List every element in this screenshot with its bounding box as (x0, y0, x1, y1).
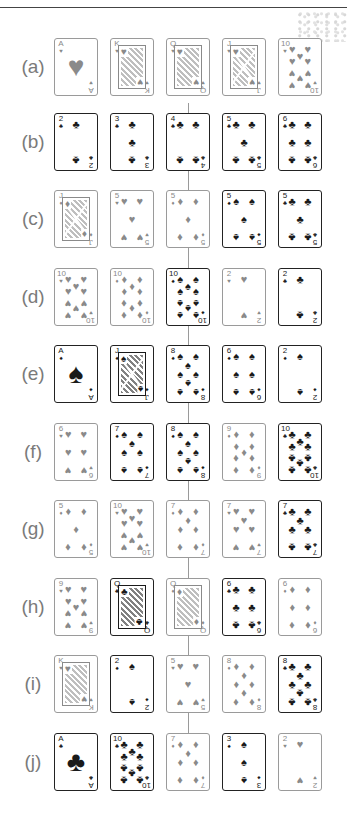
clubs-icon: ♣ (233, 583, 240, 594)
clubs-icon: ♣ (248, 583, 255, 594)
playing-card: 6♠6♠♠♠♠♠♠♠ (222, 345, 266, 403)
clubs-icon: ♣ (304, 440, 311, 451)
face-card-artwork: ♥♥ (118, 45, 146, 89)
diamonds-icon: ♦ (185, 748, 191, 759)
clubs-icon: ♣ (233, 118, 240, 129)
spades-icon: ♠ (69, 360, 84, 388)
diamonds-icon: ♦ (81, 505, 87, 516)
spades-icon: ♠ (297, 350, 303, 361)
card-rank: 5 (313, 238, 317, 247)
diamonds-icon: ♦ (65, 505, 71, 516)
clubs-icon: ♣ (304, 465, 311, 476)
card-rank: 3 (257, 781, 261, 790)
diamonds-icon: ♦ (289, 620, 295, 631)
diamonds-icon: ♦ (177, 195, 183, 206)
row-label: (i) (18, 673, 48, 695)
card-rank: 9 (89, 626, 93, 635)
spades-icon: ♠ (185, 303, 191, 314)
playing-card: 10♥10♥♥♥♥♥♥♥♥♥♥♥ (54, 268, 98, 326)
hearts-icon: ♥ (65, 583, 72, 594)
hearts-icon: ♥ (241, 310, 248, 321)
spades-icon: ♠ (241, 214, 247, 225)
row-label: (e) (18, 363, 48, 385)
spades-icon: ♠ (177, 298, 183, 309)
top-rule (0, 7, 347, 8)
diamonds-icon: ♦ (241, 687, 247, 698)
spades-icon: ♠ (137, 428, 143, 439)
playing-card: 10♠10♠♠♠♠♠♠♠♠♠♠♠ (166, 268, 210, 326)
card-rank: 2 (145, 703, 149, 712)
clubs-icon: ♣ (248, 620, 255, 631)
hearts-icon: ♥ (81, 298, 88, 309)
diamonds-icon: ♦ (121, 310, 127, 321)
hearts-icon: ♥ (289, 55, 296, 66)
hearts-icon: ♥ (241, 273, 248, 284)
face-card-artwork: ♣♣ (118, 585, 146, 629)
diamonds-icon: ♦ (193, 232, 199, 243)
clubs-icon: ♣ (192, 118, 199, 129)
card-pips: ♥♥♥♥♥♥♥ (231, 507, 257, 551)
playing-card: 3♠3♠♠♠♠ (222, 733, 266, 791)
card-pips: ♣♣♣♣♣♣ (231, 585, 257, 629)
clubs-icon: ♣ (121, 775, 128, 786)
card-pips: ♦♦♦♦♦ (63, 507, 89, 551)
clubs-icon: ♣ (296, 687, 303, 698)
card-pips: ♠ (63, 352, 89, 396)
spades-icon: ♠ (193, 387, 199, 398)
playing-card: 6♦6♦♦♦♦♦♦♦ (278, 578, 322, 636)
hearts-icon: ♥ (233, 505, 240, 516)
card-rank: 3 (145, 161, 149, 170)
clubs-icon: ♣ (233, 620, 240, 631)
playing-card: 6♣6♣♣♣♣♣♣♣ (278, 113, 322, 171)
spades-icon: ♠ (193, 428, 199, 439)
spades-icon: ♠ (193, 369, 199, 380)
hearts-icon: ♥ (121, 195, 128, 206)
spades-icon: ♠ (129, 660, 135, 671)
diamonds-icon: ♦ (185, 515, 191, 526)
clubs-icon: ♣ (289, 542, 296, 553)
clubs-icon: ♣ (304, 428, 311, 439)
spades-icon: ♠ (121, 428, 127, 439)
playing-card: A♠A♠♠ (54, 345, 98, 403)
hearts-icon: ♥ (81, 620, 88, 631)
card-pips: ♠♠♠♠♠♠♠♠ (175, 352, 201, 396)
hearts-icon: ♥ (193, 660, 200, 671)
clubs-icon: ♣ (289, 232, 296, 243)
spades-icon: ♠ (177, 273, 183, 284)
row-label: (g) (18, 518, 48, 540)
diamonds-icon: ♦ (177, 505, 183, 516)
spades-icon: ♠ (137, 384, 144, 394)
clubs-icon: ♣ (296, 310, 303, 321)
hearts-icon: ♥ (249, 542, 256, 553)
spades-icon: ♠ (241, 738, 247, 749)
row-label: (d) (18, 286, 48, 308)
card-pips: ♦♦♦♦♦♦♦♦♦♦ (119, 275, 145, 319)
playing-card: 4♣4♣♣♣♣♣ (166, 113, 210, 171)
hearts-icon: ♥ (81, 608, 88, 619)
clubs-icon: ♣ (296, 273, 303, 284)
clubs-icon: ♣ (128, 118, 135, 129)
clubs-icon: ♣ (296, 458, 303, 469)
clubs-icon: ♣ (128, 768, 135, 779)
hearts-icon: ♥ (305, 80, 312, 91)
spades-icon: ♠ (120, 354, 127, 364)
card-rank: 6 (257, 626, 261, 635)
diamonds-icon: ♦ (249, 440, 255, 451)
clubs-icon: ♣ (304, 155, 311, 166)
hearts-icon: ♥ (121, 530, 128, 541)
card-pips: ♠♠♠♠♠♠ (231, 352, 257, 396)
diamonds-icon: ♦ (249, 428, 255, 439)
diamonds-icon: ♦ (193, 505, 199, 516)
spades-icon: ♠ (137, 465, 143, 476)
card-pips: ♣♣♣♣ (175, 120, 201, 164)
card-rank: 6 (313, 161, 317, 170)
clubs-icon: ♣ (289, 465, 296, 476)
clubs-icon: ♣ (304, 524, 311, 535)
hearts-icon: ♥ (81, 428, 88, 439)
playing-card: 10♣10♣♣♣♣♣♣♣♣♣♣♣ (278, 423, 322, 481)
card-rank: 5 (145, 238, 149, 247)
diamonds-icon: ♦ (193, 542, 199, 553)
spades-icon: ♠ (241, 757, 247, 768)
hearts-icon: ♥ (121, 542, 128, 553)
playing-card: 2♣2♣♣♣ (278, 268, 322, 326)
